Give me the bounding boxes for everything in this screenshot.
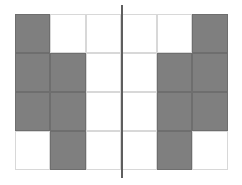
grid-cell-r2c3 <box>86 53 122 92</box>
grid-cell-r4c4 <box>121 131 157 170</box>
grid-cell-r2c4 <box>121 53 157 92</box>
grid-cell-r4c6 <box>192 131 228 170</box>
grid-cell-r2c2 <box>50 53 86 92</box>
grid-cell-r3c3 <box>86 92 122 131</box>
grid-cell-r1c5 <box>157 14 193 53</box>
grid-cell-r2c6 <box>192 53 228 92</box>
grid-cell-r1c4 <box>121 14 157 53</box>
grid-cell-r1c1 <box>15 14 51 53</box>
figure-canvas <box>0 0 242 185</box>
grid-cell-r4c1 <box>15 131 51 170</box>
grid-cell-r2c1 <box>15 53 51 92</box>
grid-cell-r3c6 <box>192 92 228 131</box>
grid-cell-r3c1 <box>15 92 51 131</box>
grid-cell-r3c5 <box>157 92 193 131</box>
grid-cell-r3c2 <box>50 92 86 131</box>
vertical-axis-line <box>121 5 123 178</box>
grid-cell-r1c2 <box>50 14 86 53</box>
grid-cell-r4c5 <box>157 131 193 170</box>
grid-cell-r1c6 <box>192 14 228 53</box>
grid-cell-r2c5 <box>157 53 193 92</box>
grid-cell-r4c3 <box>86 131 122 170</box>
grid-cell-r1c3 <box>86 14 122 53</box>
grid-cell-r3c4 <box>121 92 157 131</box>
grid-cell-r4c2 <box>50 131 86 170</box>
